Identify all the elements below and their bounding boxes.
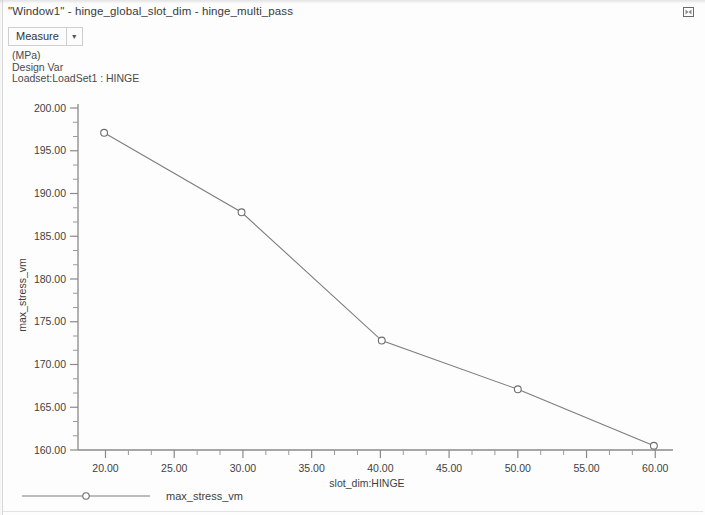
plot-annotations: (MPa) Design Var Loadset:LoadSet1 : HING…	[12, 50, 139, 85]
y-tick-label: 185.00	[34, 230, 66, 242]
chevron-down-icon[interactable]: ▼	[67, 27, 83, 46]
x-tick-label: 40.00	[367, 462, 393, 474]
window-titlebar: "Window1" - hinge_global_slot_dim - hing…	[0, 0, 705, 24]
loadset-label: Loadset:LoadSet1 : HINGE	[12, 73, 139, 85]
series-polyline	[104, 133, 654, 446]
x-tick-label: 55.00	[573, 462, 599, 474]
y-tick-label: 180.00	[34, 273, 66, 285]
x-tick-label: 20.00	[92, 462, 118, 474]
y-tick-label: 160.00	[34, 444, 66, 456]
y-tick-label: 195.00	[34, 144, 66, 156]
restore-window-icon[interactable]	[682, 6, 695, 18]
x-tick-label: 30.00	[230, 462, 256, 474]
x-tick-label: 50.00	[505, 462, 531, 474]
y-axis-title: max_stress_vm	[16, 258, 28, 332]
x-tick-label: 25.00	[161, 462, 187, 474]
legend-label-max-stress-vm: max_stress_vm	[166, 490, 243, 502]
x-tick-label: 60.00	[642, 462, 668, 474]
x-tick-label: 35.00	[299, 462, 325, 474]
y-tick-label: 170.00	[34, 358, 66, 370]
data-point-marker[interactable]	[378, 337, 385, 344]
y-tick-label: 200.00	[34, 102, 66, 114]
units-label: (MPa)	[12, 50, 139, 62]
x-tick-label: 45.00	[436, 462, 462, 474]
legend-swatch	[18, 487, 158, 505]
x-axis-title: slot_dim:HINGE	[329, 477, 404, 489]
y-tick-label: 190.00	[34, 187, 66, 199]
y-tick-label: 175.00	[34, 315, 66, 327]
data-series-max-stress-vm	[101, 129, 658, 449]
data-point-marker[interactable]	[514, 386, 521, 393]
measure-plot-window: "Window1" - hinge_global_slot_dim - hing…	[0, 0, 705, 515]
data-point-marker[interactable]	[650, 442, 657, 449]
window-title: "Window1" - hinge_global_slot_dim - hing…	[8, 5, 293, 17]
data-point-marker[interactable]	[101, 129, 108, 136]
data-point-marker[interactable]	[238, 209, 245, 216]
measure-toolbar: Measure ▼	[8, 27, 83, 46]
y-axis: 160.00165.00170.00175.00180.00185.00190.…	[34, 102, 78, 456]
chart-legend: max_stress_vm	[18, 487, 338, 507]
x-axis: 20.0025.0030.0035.0040.0045.0050.0055.00…	[78, 450, 673, 474]
y-tick-label: 165.00	[34, 401, 66, 413]
measure-button[interactable]: Measure	[8, 27, 67, 46]
